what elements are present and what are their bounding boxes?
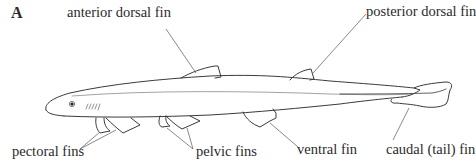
label-anterior-dorsal-fin: anterior dorsal fin (67, 5, 171, 20)
label-ventral-fin: ventral fin (297, 142, 357, 157)
caudal-fin-inner-line (340, 89, 446, 94)
body-ventral-outline (64, 97, 402, 117)
leader-pelvic-1 (167, 128, 193, 149)
leader-pectoral-2 (80, 130, 116, 149)
label-caudal-fin: caudal (tail) fin (386, 142, 475, 157)
label-pelvic-fins: pelvic fins (196, 144, 257, 159)
label-posterior-dorsal-fin: posterior dorsal fin (366, 4, 476, 19)
body-snout-outline (46, 110, 64, 116)
gill-slits (86, 104, 100, 110)
panel-label: A (11, 5, 23, 21)
leader-caudal (393, 108, 409, 140)
pelvic-fin-shape-2 (166, 116, 200, 129)
leader-ventral (270, 123, 298, 147)
pectoral-fin-shape-2 (106, 118, 140, 133)
label-pectoral-fins: pectoral fins (12, 144, 84, 159)
body-dorsal-outline (46, 75, 414, 110)
leader-pelvic-2 (187, 128, 193, 149)
leader-posterior-dorsal (313, 14, 366, 73)
leader-anterior-dorsal (166, 29, 196, 73)
leader-lines (80, 14, 409, 149)
